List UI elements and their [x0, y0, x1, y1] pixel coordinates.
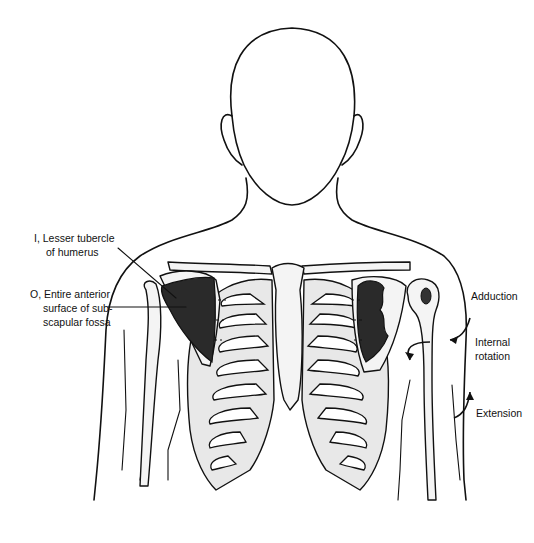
left-humerus-bone [407, 279, 439, 500]
right-humerus-bone [140, 281, 161, 486]
extension-arrow [454, 392, 470, 418]
internal-text: Internal [475, 335, 510, 349]
sternum [272, 264, 304, 411]
extension-text: Extension [476, 406, 522, 420]
insertion-label: I, Lesser tubercle of humerus [34, 231, 115, 259]
anatomy-figure [0, 0, 534, 543]
head-outline [221, 28, 363, 205]
origin-label-line1: O, Entire anterior [30, 287, 112, 301]
action-extension-label: Extension [476, 406, 522, 420]
action-adduction-label: Adduction [471, 289, 518, 303]
adduction-text: Adduction [471, 289, 518, 303]
subscapularis-muscle-left [352, 277, 406, 372]
action-internal-rotation-label: Internal rotation [475, 335, 510, 363]
rotation-text: rotation [475, 349, 510, 363]
origin-label: O, Entire anterior surface of sub- scapu… [30, 287, 112, 329]
origin-label-line3: scapular fossa [30, 315, 112, 329]
insertion-label-line2: of humerus [34, 245, 115, 259]
insertion-label-line1: I, Lesser tubercle [34, 231, 115, 245]
origin-label-line2: surface of sub- [30, 301, 112, 315]
